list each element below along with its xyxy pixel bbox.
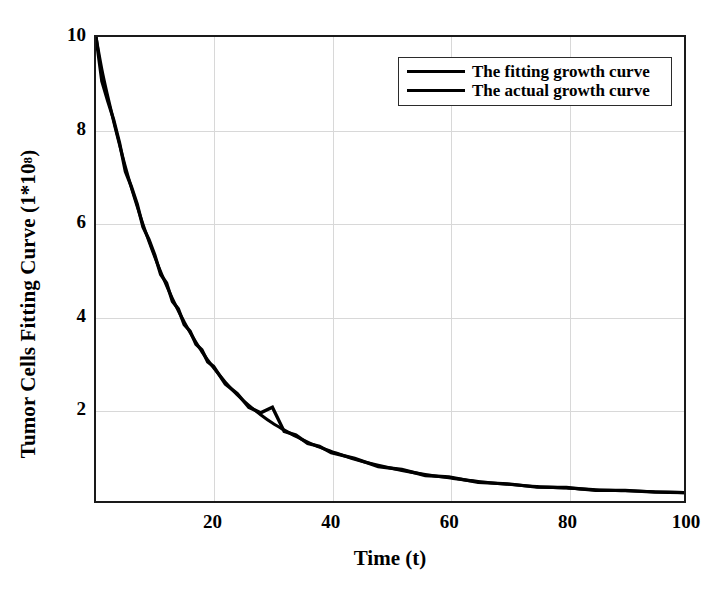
chart-figure: Tumor Cells Fitting Curve (1*108) 246810… [0,0,724,608]
y-axis-title-suffix: ) [16,150,41,157]
y-tick-label: 4 [46,305,86,327]
legend-item-fitting: The fitting growth curve [407,62,663,81]
legend-line-icon-actual [407,89,465,92]
y-tick-label: 10 [46,24,86,46]
chart-legend: The fitting growth curve The actual grow… [398,57,672,106]
y-tick-label: 2 [46,398,86,420]
y-axis-tick-labels: 246810 [42,0,86,608]
legend-label-fitting: The fitting growth curve [472,63,650,80]
x-tick-label: 20 [182,511,242,533]
y-tick-label: 8 [46,118,86,140]
x-axis-title: Time (t) [94,546,686,571]
legend-item-actual: The actual growth curve [407,81,663,100]
x-tick-label: 80 [538,511,598,533]
y-tick-label: 6 [46,211,86,233]
y-axis-title-text: Tumor Cells Fitting Curve (1*10 [16,163,41,458]
x-tick-label: 60 [419,511,479,533]
legend-label-actual: The actual growth curve [472,82,650,99]
x-tick-label: 100 [656,511,716,533]
curve-layer [96,37,684,501]
x-tick-label: 40 [301,511,361,533]
legend-line-icon-fitting [407,70,465,73]
